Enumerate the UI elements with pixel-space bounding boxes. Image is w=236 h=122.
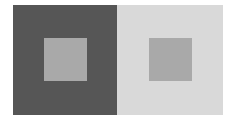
light-background-panel (117, 5, 223, 115)
gray-center-square-right (149, 38, 192, 81)
gray-center-square-left (44, 38, 87, 81)
dark-background-panel (13, 5, 117, 115)
